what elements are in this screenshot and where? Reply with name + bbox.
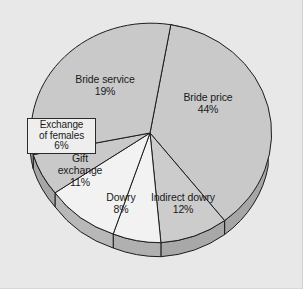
slice-label-gift-exchange: Gift exchange 11% — [44, 153, 116, 188]
slice-label-exchange-of-females: Exchange of females 6% — [27, 118, 96, 154]
slice-label-gift-exchange-line2: exchange — [44, 165, 116, 177]
slice-label-gift-exchange-line1: Gift — [44, 153, 116, 165]
slice-label-bride-price-name: Bride price — [163, 92, 253, 104]
slice-label-bride-service: Bride service 19% — [59, 74, 151, 98]
pie-chart-figure: Bride price 44% Bride service 19% Exchan… — [0, 0, 303, 289]
slice-label-dowry: Dowry 8% — [98, 192, 144, 216]
slice-label-exchange-of-females-line1: Exchange — [30, 120, 93, 131]
slice-label-dowry-percent: 8% — [98, 204, 144, 216]
slice-label-indirect-dowry: Indirect dowry 12% — [144, 192, 222, 216]
slice-label-bride-price-percent: 44% — [163, 104, 253, 116]
slice-label-indirect-dowry-percent: 12% — [144, 204, 222, 216]
slice-label-gift-exchange-percent: 11% — [44, 177, 116, 189]
slice-label-bride-service-percent: 19% — [59, 86, 151, 98]
slice-label-dowry-name: Dowry — [98, 192, 144, 204]
slice-label-bride-service-name: Bride service — [59, 74, 151, 86]
slice-label-bride-price: Bride price 44% — [163, 92, 253, 116]
slice-label-indirect-dowry-name: Indirect dowry — [144, 192, 222, 204]
slice-label-exchange-of-females-percent: 6% — [30, 141, 93, 152]
